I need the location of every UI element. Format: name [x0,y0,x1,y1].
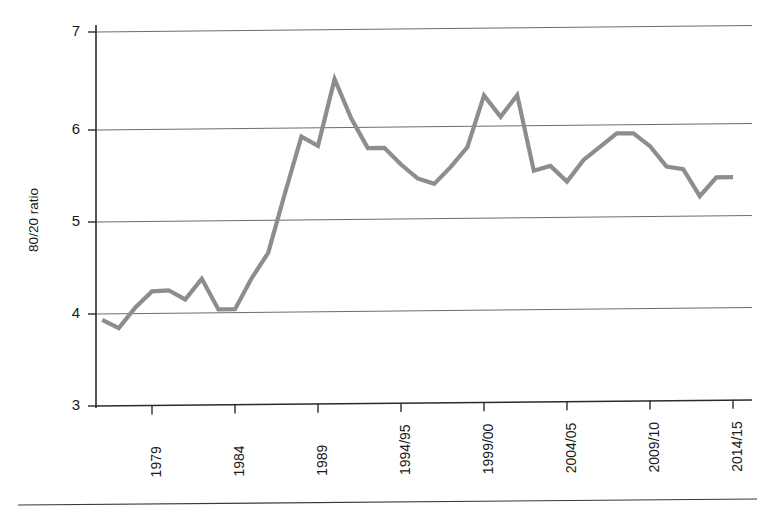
x-tick-label-1994-95: 1994/95 [397,424,413,475]
x-tick-label-2009-10: 2009/10 [646,422,662,473]
x-tick-labels: 1979198419891994/951999/002004/052009/10… [148,421,745,478]
x-tick-label-2004-05: 2004/05 [563,422,579,473]
y-tick-labels: 7 6 5 4 3 [72,22,80,413]
y-tick-label-5: 5 [72,212,80,229]
x-tick-label-1999-00: 1999/00 [480,423,496,474]
gridline-5 [96,216,752,223]
x-tick-label-2014-15: 2014/15 [729,421,745,472]
gridline-7 [96,26,752,33]
y-tick-label-3: 3 [72,396,80,413]
x-axis [96,400,752,406]
x-tick-label-1984: 1984 [231,445,247,476]
chart-figure: 7 6 5 4 3 80/20 ratio 1979198419891994/9… [0,0,773,517]
y-axis-title: 80/20 ratio [26,188,41,252]
y-tickmarks [88,32,96,406]
gridline-6 [96,124,752,131]
series-group [102,79,733,328]
gridlines [96,26,752,315]
gridline-4 [96,308,752,315]
series-line-80-20-ratio [102,79,733,328]
y-tick-label-4: 4 [72,304,80,321]
chart-canvas: 7 6 5 4 3 80/20 ratio 1979198419891994/9… [0,0,773,517]
y-tick-label-6: 6 [72,120,80,137]
x-tick-label-1989: 1989 [314,444,330,475]
footer-divider-rule [18,499,757,505]
x-tick-label-1979: 1979 [148,446,164,477]
x-tickmarks [152,400,733,415]
y-tick-label-7: 7 [72,22,80,39]
